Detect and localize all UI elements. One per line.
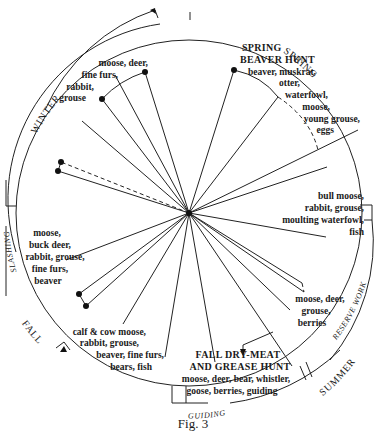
svg-text:goose, berries, guiding: goose, berries, guiding xyxy=(187,386,278,396)
svg-text:beaver: beaver xyxy=(34,276,62,286)
svg-text:moose, deer,: moose, deer, xyxy=(295,294,345,304)
svg-text:grouse,: grouse, xyxy=(301,306,331,316)
label-early-summer-resources: bull moose, rabbit, grouse, moulting wat… xyxy=(282,191,365,237)
svg-text:moose, deer,: moose, deer, xyxy=(98,58,148,68)
svg-text:fine furs,: fine furs, xyxy=(32,264,69,274)
season-winter: WINTER xyxy=(28,92,62,135)
svg-text:moose,: moose, xyxy=(33,228,61,238)
season-summer: SUMMER xyxy=(317,356,357,398)
svg-text:FALL DRY-MEAT: FALL DRY-MEAT xyxy=(196,349,281,360)
svg-text:beaver, muskrat,: beaver, muskrat, xyxy=(248,67,317,77)
label-late-summer-resources: moose, deer, grouse, berries xyxy=(295,294,345,328)
svg-text:rabbit, grouse,: rabbit, grouse, xyxy=(305,203,365,213)
label-winter-resources: moose, deer, fine furs, rabbit, grouse xyxy=(59,58,148,103)
svg-text:fine furs,: fine furs, xyxy=(82,70,119,80)
svg-text:SPRING: SPRING xyxy=(242,42,282,53)
svg-text:grouse: grouse xyxy=(59,93,86,103)
svg-text:young grouse,: young grouse, xyxy=(304,114,361,124)
activity-slashing: SLASHING xyxy=(2,231,18,274)
svg-text:moulting waterfowl,: moulting waterfowl, xyxy=(282,215,364,225)
svg-text:bears, fish: bears, fish xyxy=(110,362,152,372)
label-fall-resources: calf & cow moose, rabbit, grouse, beaver… xyxy=(73,327,165,372)
svg-text:AND GREASE HUNT: AND GREASE HUNT xyxy=(189,361,290,372)
figure-caption: Fig. 3 xyxy=(178,416,208,431)
svg-text:rabbit, grouse,: rabbit, grouse, xyxy=(25,252,85,262)
svg-text:moose,: moose, xyxy=(302,102,330,112)
svg-text:calf & cow moose,: calf & cow moose, xyxy=(73,327,147,337)
label-fall-drymeat-resources: moose, deer, bear, whistler, goose, berr… xyxy=(182,374,291,396)
seasonal-round-diagram: WINTER SPRING SUMMER FALL SLASHING RESER… xyxy=(0,0,388,433)
svg-text:moose, deer, bear, whistler,: moose, deer, bear, whistler, xyxy=(182,374,291,384)
svg-text:eggs: eggs xyxy=(317,125,335,135)
svg-text:rabbit,: rabbit, xyxy=(66,82,94,92)
season-fall: FALL xyxy=(20,318,46,346)
svg-text:beaver, fine furs,: beaver, fine furs, xyxy=(96,350,164,360)
svg-text:otter,: otter, xyxy=(279,78,301,88)
label-spring-resources: beaver, muskrat, otter, waterfowl, moose… xyxy=(248,67,361,135)
svg-text:BEAVER HUNT: BEAVER HUNT xyxy=(240,54,315,65)
svg-text:fish: fish xyxy=(349,227,365,237)
svg-text:rabbit, grouse,: rabbit, grouse, xyxy=(80,338,140,348)
spring-beaver-hunt: SPRING BEAVER HUNT xyxy=(240,42,315,65)
label-early-winter-resources: moose, buck deer, rabbit, grouse, fine f… xyxy=(25,228,85,286)
svg-text:bull moose,: bull moose, xyxy=(318,191,365,201)
fall-drymeat-hunt: FALL DRY-MEAT AND GREASE HUNT xyxy=(189,349,290,372)
svg-text:waterfowl,: waterfowl, xyxy=(285,90,329,100)
svg-text:berries: berries xyxy=(298,318,327,328)
svg-text:buck deer,: buck deer, xyxy=(29,240,72,250)
